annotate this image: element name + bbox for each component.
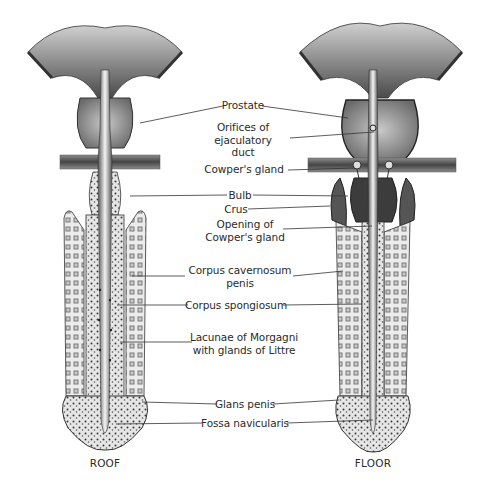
label-prostate: Prostate [222,99,264,112]
label-corpus-cavernosum-penis: Corpus cavernosum penis [189,264,292,289]
label-glans-penis: Glans penis [215,398,275,411]
label-corpus-spongiosum: Corpus spongiosum [185,299,287,312]
label-opening-of-cowpers-gland: Opening of Cowper's gland [205,218,284,243]
caption-floor: FLOOR [355,457,391,469]
roof-view [28,26,182,450]
label-cowpers-gland: Cowper's gland [204,163,283,176]
label-lacunae-of-morgagni: Lacunae of Morgagni with glands of Littr… [190,331,298,356]
caption-roof: ROOF [90,457,121,469]
label-bulb: Bulb [228,189,251,202]
label-crus: Crus [224,203,247,216]
label-orifices-of-ejaculatory-duct: Orifices of ejaculatory duct [214,121,272,159]
label-fossa-navicularis: Fossa navicularis [201,417,289,430]
floor-view [300,23,462,452]
anatomy-figure: Prostate Orifices of ejaculatory duct Co… [0,0,486,490]
